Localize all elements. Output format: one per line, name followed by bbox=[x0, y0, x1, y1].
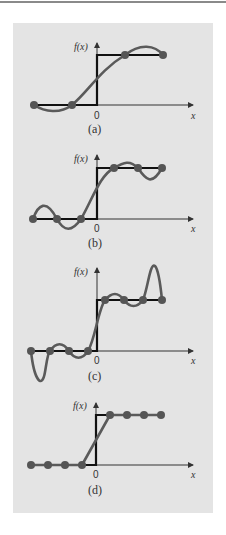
y-axis-label: f(x) bbox=[74, 41, 89, 53]
step-function bbox=[34, 55, 163, 105]
data-point bbox=[123, 411, 131, 419]
y-axis-label: f(x) bbox=[73, 400, 88, 412]
figure-svg: f(x) x 0 (a) f(x) x 0 (b) f(x) x 0 bbox=[0, 0, 226, 535]
data-point bbox=[27, 347, 35, 355]
caption-a: (a) bbox=[88, 122, 101, 136]
x-axis-label: x bbox=[190, 110, 196, 121]
caption-b: (b) bbox=[88, 236, 102, 250]
origin-label: 0 bbox=[94, 110, 100, 121]
data-point bbox=[120, 296, 128, 304]
data-point bbox=[77, 215, 85, 223]
x-axis-label: x bbox=[190, 355, 196, 366]
data-point bbox=[29, 215, 37, 223]
interpolating-curve bbox=[34, 47, 163, 111]
x-axis-label: x bbox=[190, 223, 196, 234]
panel-b: f(x) x 0 (b) bbox=[29, 153, 196, 250]
data-point bbox=[121, 51, 129, 59]
data-point bbox=[84, 347, 92, 355]
data-point bbox=[134, 164, 142, 172]
data-point bbox=[157, 411, 165, 419]
panel-c: f(x) x 0 (c) bbox=[27, 266, 196, 383]
origin-label: 0 bbox=[94, 355, 100, 366]
data-point bbox=[158, 296, 166, 304]
data-point bbox=[110, 164, 118, 172]
data-point bbox=[140, 411, 148, 419]
y-axis-label: f(x) bbox=[74, 153, 89, 165]
data-point bbox=[139, 296, 147, 304]
panel-d: f(x) x 0 (d) bbox=[27, 400, 196, 497]
data-point bbox=[44, 461, 52, 469]
data-point bbox=[106, 411, 114, 419]
data-point bbox=[53, 215, 61, 223]
data-point bbox=[159, 51, 167, 59]
caption-c: (c) bbox=[88, 369, 101, 383]
data-point bbox=[158, 164, 166, 172]
data-point bbox=[68, 101, 76, 109]
data-point bbox=[101, 296, 109, 304]
origin-label: 0 bbox=[94, 223, 100, 234]
caption-d: (d) bbox=[88, 483, 102, 497]
data-point bbox=[27, 461, 35, 469]
data-point bbox=[61, 461, 69, 469]
x-axis-label: x bbox=[190, 469, 196, 480]
data-point bbox=[78, 461, 86, 469]
data-point bbox=[46, 347, 54, 355]
y-axis-label: f(x) bbox=[74, 266, 89, 278]
data-point bbox=[65, 347, 73, 355]
origin-label: 0 bbox=[93, 469, 99, 480]
panel-a: f(x) x 0 (a) bbox=[30, 41, 196, 136]
data-point bbox=[30, 101, 38, 109]
